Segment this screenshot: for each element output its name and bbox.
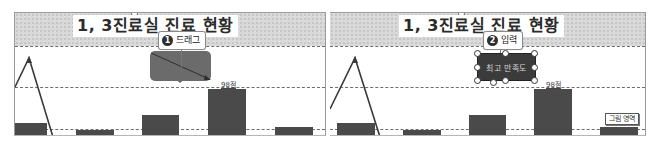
resize-handle[interactable] bbox=[531, 50, 538, 57]
callout-label: 입력 bbox=[501, 32, 517, 49]
chart-bar[interactable] bbox=[534, 89, 572, 135]
chart-bar[interactable] bbox=[403, 130, 441, 135]
slide-panel-step-1: 1, 3진료실 진료 현황 98점 1 드래그 bbox=[14, 12, 326, 136]
callout-step-1: 1 드래그 bbox=[158, 31, 206, 50]
callout-step-2: 2 입력 bbox=[483, 31, 523, 50]
resize-handle[interactable] bbox=[502, 77, 509, 84]
chart-bar[interactable] bbox=[469, 115, 506, 135]
chart-bar[interactable] bbox=[337, 123, 375, 135]
resize-handle[interactable] bbox=[531, 77, 538, 84]
chart-bar[interactable] bbox=[600, 127, 638, 135]
slide-panel-step-2: 1, 3진료실 진료 현황 98점 최고 만족도 2 입력 그림 영역 bbox=[330, 12, 646, 136]
shape-adjust-handle[interactable] bbox=[490, 79, 497, 86]
step-number-badge: 1 bbox=[162, 35, 173, 46]
resize-handle[interactable] bbox=[474, 50, 481, 57]
callout-label: 드래그 bbox=[176, 32, 200, 49]
resize-handle[interactable] bbox=[531, 64, 538, 71]
chart-area-tooltip: 그림 영역 bbox=[605, 113, 639, 125]
resize-handle[interactable] bbox=[474, 77, 481, 84]
step-number-badge: 2 bbox=[487, 35, 498, 46]
data-label: 98점 bbox=[546, 79, 561, 89]
resize-handle[interactable] bbox=[474, 64, 481, 71]
resize-handle[interactable] bbox=[502, 50, 509, 57]
callout-stem bbox=[181, 47, 182, 67]
